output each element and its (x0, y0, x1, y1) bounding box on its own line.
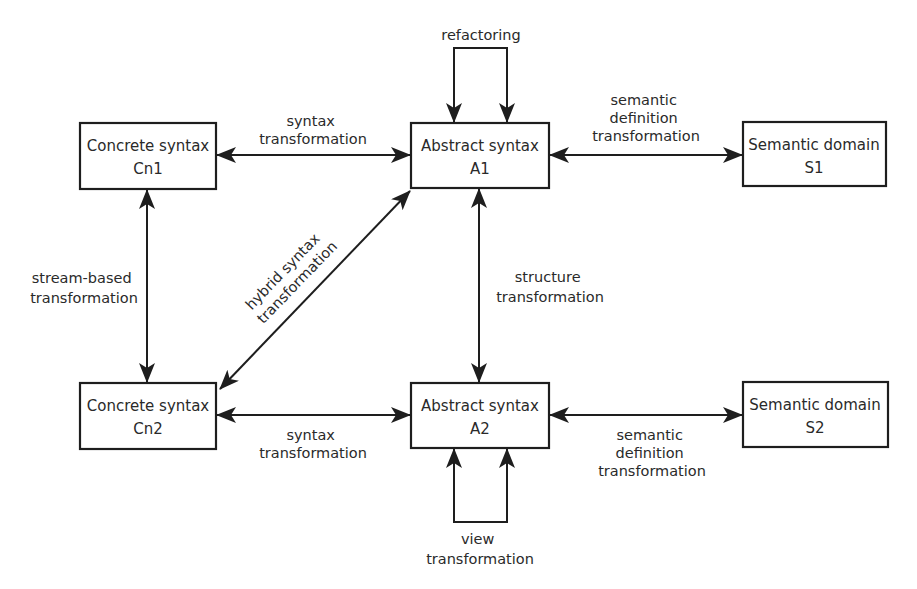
label-hybrid: hybrid syntax transformation (241, 226, 340, 327)
node-semantic-domain-s1: Semantic domain S1 (743, 122, 886, 186)
node-id: S1 (804, 159, 823, 177)
node-id: Cn2 (133, 420, 163, 438)
label-syntax-top: syntax transformation (259, 113, 367, 147)
node-title: Semantic domain (749, 396, 880, 414)
label-view: view transformation (426, 531, 534, 567)
node-abstract-syntax-a2: Abstract syntax A2 (411, 383, 549, 448)
node-id: A2 (470, 420, 490, 438)
node-id: A1 (470, 160, 490, 178)
label-semantic-top: semantic definition transformation (592, 92, 700, 144)
node-id: Cn1 (133, 160, 163, 178)
node-title: Abstract syntax (421, 397, 539, 415)
edge-hybrid (220, 191, 410, 389)
label-stream: stream-based transformation (30, 270, 138, 306)
label-structure: structure transformation (496, 269, 604, 305)
node-concrete-syntax-cn2: Concrete syntax Cn2 (80, 383, 216, 449)
label-semantic-bottom: semantic definition transformation (598, 427, 706, 479)
edge-refactoring (454, 48, 507, 122)
node-concrete-syntax-cn1: Concrete syntax Cn1 (80, 123, 216, 189)
node-title: Concrete syntax (87, 397, 210, 415)
node-title: Concrete syntax (87, 137, 210, 155)
node-id: S2 (805, 419, 824, 437)
syntax-transformation-diagram: refactoring syntax transformation semant… (0, 0, 917, 589)
node-title: Semantic domain (748, 136, 879, 154)
label-refactoring: refactoring (441, 27, 520, 43)
edge-view (454, 449, 507, 522)
label-syntax-bottom: syntax transformation (259, 427, 367, 461)
node-abstract-syntax-a1: Abstract syntax A1 (411, 123, 549, 188)
node-title: Abstract syntax (421, 137, 539, 155)
node-semantic-domain-s2: Semantic domain S2 (743, 382, 888, 447)
